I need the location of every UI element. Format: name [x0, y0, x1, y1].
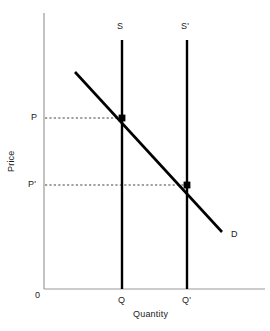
- x-tick-label-q-prime: Q': [182, 296, 191, 305]
- supply-demand-chart: S S' D P P' Q Q' 0 Price Quantity: [0, 0, 270, 331]
- supply-curve-s-prime-label: S': [181, 22, 189, 31]
- y-tick-label-p-prime: P': [28, 180, 36, 189]
- equilibrium-marker-new: [184, 182, 191, 189]
- supply-curve-s-label: S: [117, 22, 123, 31]
- origin-label: 0: [35, 291, 40, 300]
- x-tick-label-q: Q: [118, 296, 125, 305]
- y-tick-label-p: P: [31, 113, 37, 122]
- demand-curve-d-label: D: [231, 230, 238, 239]
- equilibrium-marker-initial: [119, 115, 126, 122]
- x-axis-title: Quantity: [133, 310, 168, 319]
- chart-canvas: [0, 0, 270, 331]
- demand-curve-d: [75, 72, 222, 232]
- y-axis-title: Price: [7, 150, 16, 172]
